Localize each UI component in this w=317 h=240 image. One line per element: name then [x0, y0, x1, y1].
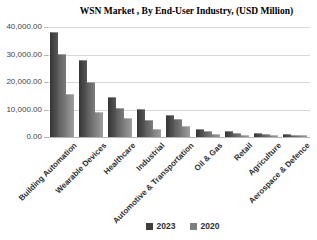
y-axis-tick-label: 30,000.00: [6, 51, 42, 59]
legend-item-2023: 2023: [146, 221, 176, 231]
bar-group: [164, 115, 193, 137]
y-axis: 40,000.0030,000.0020,000.0010,000.000.00: [0, 27, 45, 137]
legend-swatch-icon: [190, 223, 197, 230]
bar-group: [252, 133, 281, 137]
bar-2023: [79, 60, 87, 137]
x-axis-line: [48, 137, 310, 138]
chart-image: WSN Market , By End-User Industry, (USD …: [0, 0, 317, 240]
legend-swatch-icon: [146, 223, 153, 230]
bar-unlabeled-third-column: [270, 135, 278, 137]
bar-group: [281, 134, 310, 137]
bar-2023: [196, 129, 204, 137]
bar-2023: [254, 133, 262, 137]
bar-2023: [137, 109, 145, 137]
bar-2020: [87, 82, 95, 137]
bar-group: [77, 60, 106, 137]
bar-2023: [283, 134, 291, 137]
bar-unlabeled-third-column: [241, 135, 249, 137]
y-axis-tick: [44, 27, 48, 28]
x-axis-category-label: Aerospace & Defence: [247, 141, 312, 206]
y-axis-tick-label: 10,000.00: [6, 106, 42, 114]
bar-group: [48, 32, 77, 137]
bar-2020: [233, 133, 241, 137]
y-axis-tick: [44, 137, 48, 138]
legend: 20232020: [48, 221, 317, 231]
bar-2023: [166, 115, 174, 137]
bar-2023: [108, 97, 116, 137]
bar-2020: [174, 119, 182, 137]
bar-unlabeled-third-column: [182, 126, 190, 137]
bar-group: [223, 131, 252, 137]
bar-group: [106, 97, 135, 137]
bar-2020: [58, 54, 66, 137]
bar-2023: [225, 131, 233, 137]
bar-2020: [145, 120, 153, 137]
bar-unlabeled-third-column: [153, 129, 161, 137]
y-axis-tick-label: 0.00: [26, 133, 42, 141]
bar-2020: [116, 108, 124, 137]
bar-unlabeled-third-column: [212, 134, 220, 137]
bar-2023: [50, 32, 58, 137]
x-axis-category-label: Retail: [232, 141, 254, 163]
bar-unlabeled-third-column: [124, 118, 132, 137]
bar-2020: [204, 131, 212, 137]
chart-title: WSN Market , By End-User Industry, (USD …: [58, 6, 315, 16]
y-axis-tick-label: 40,000.00: [6, 23, 42, 31]
legend-item-2020: 2020: [190, 221, 220, 231]
bar-2020: [262, 134, 270, 137]
x-axis-category-label: Oil & Gas: [193, 141, 225, 173]
bar-unlabeled-third-column: [66, 94, 74, 137]
y-axis-tick-label: 20,000.00: [6, 78, 42, 86]
legend-label: 2020: [201, 221, 220, 231]
x-axis-category-label: Wearable Devices: [54, 141, 108, 195]
bar-group: [135, 109, 164, 137]
gridline: [48, 27, 310, 28]
bar-2020: [291, 135, 299, 137]
legend-label: 2023: [157, 221, 176, 231]
bar-group: [194, 129, 223, 137]
gridline: [48, 55, 310, 56]
bar-unlabeled-third-column: [95, 112, 103, 137]
bar-unlabeled-third-column: [299, 135, 307, 137]
plot-area: [48, 27, 310, 137]
